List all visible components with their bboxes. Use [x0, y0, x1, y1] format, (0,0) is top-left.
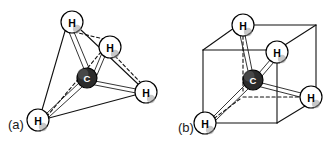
panel-a-atom-c-center: C [77, 68, 97, 88]
panel-b-atom-c-center: C [243, 70, 263, 90]
bond-c-h-top-back-left-edge2 [245, 35, 252, 70]
panel-b-atom-h-top-back-left: H [232, 14, 254, 36]
bond-c-h-top-front-right [259, 59, 271, 73]
methane-geometry-figure: H H H H C [0, 0, 333, 145]
bond-c-h-back-right [94, 53, 102, 72]
bond-c-h-bottom-front-left [213, 85, 245, 117]
atom-label-h: H [273, 47, 281, 59]
atom-label-h: H [106, 42, 114, 54]
cube-edge-backbotleft-frontbotleft [212, 99, 240, 120]
atom-label-h: H [142, 87, 150, 99]
bond-c-h-bottom-back-right [262, 83, 301, 93]
bond-c-h-bottom-front-left-edge2 [216, 89, 248, 120]
bond-c-h-front-right-edge2 [95, 85, 136, 93]
atom-label-h: H [68, 17, 76, 29]
panel-b-atom-h-bottom-front-left: H [194, 112, 216, 134]
atom-label-h: H [239, 20, 247, 32]
panel-a-atom-h-back-right: H [99, 36, 121, 58]
atom-label-c: C [250, 75, 257, 86]
atom-label-c: C [84, 73, 91, 84]
bond-c-h-back-right-edge2 [97, 56, 105, 75]
bond-c-h-bottom-back-right-edge2 [261, 87, 300, 97]
panel-b-cube: H H H H C [178, 14, 322, 135]
figure-canvas: H H H H C [0, 0, 333, 145]
panel-a-atom-h-front-right: H [135, 81, 157, 103]
bond-c-h-top-front-right-edge2 [262, 62, 274, 76]
panel-label-a: (a) [8, 117, 24, 132]
panel-a-atom-h-bottom-left: H [27, 109, 49, 131]
bond-c-h-bottom-left [46, 83, 79, 114]
panel-label-b: (b) [178, 120, 194, 135]
panel-a-tetrahedron: H H H H C [8, 11, 157, 132]
bond-c-h-bottom-left-edge2 [49, 87, 82, 117]
bond-c-h-front-right [95, 81, 136, 89]
panel-b-atom-h-top-front-right: H [266, 41, 288, 63]
atom-label-h: H [201, 118, 209, 130]
bond-c-h-top-back-left [240, 35, 248, 71]
panel-a-atom-h-top-apex: H [61, 11, 83, 33]
cube-edge-fronttopleft-backtopleft [203, 28, 234, 50]
atom-label-h: H [307, 92, 315, 104]
atom-label-h: H [34, 115, 42, 127]
tetra-edge-backright-frontright [115, 56, 140, 82]
panel-b-atom-h-bottom-back-right: H [300, 86, 322, 108]
